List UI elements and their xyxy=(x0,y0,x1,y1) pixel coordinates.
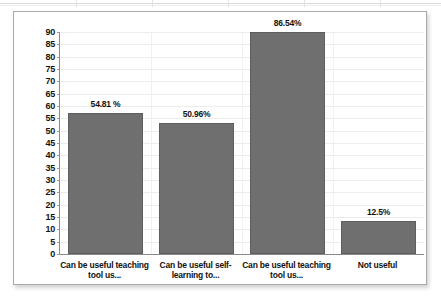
y-axis-tick-mark xyxy=(57,32,60,33)
plot-area: 05101520253035404550556065707580859054.8… xyxy=(59,32,424,255)
scan-artifact-tick xyxy=(152,0,153,7)
bar-value-label-2: 50.96% xyxy=(183,109,211,119)
y-axis-tick-mark xyxy=(57,57,60,58)
y-axis-tick-mark xyxy=(57,192,60,193)
y-axis-tick-label: 0 xyxy=(50,250,55,259)
y-axis-tick-mark xyxy=(57,205,60,206)
category-separator xyxy=(151,32,152,254)
y-axis-tick-mark xyxy=(57,180,60,181)
y-axis-tick-label: 45 xyxy=(45,139,55,148)
category-separator xyxy=(242,32,243,254)
y-axis-tick-label: 90 xyxy=(45,28,55,37)
x-axis-label-4: Not useful xyxy=(332,260,423,270)
bar-value-label-3: 86.54% xyxy=(274,18,302,28)
y-axis-tick-mark xyxy=(57,81,60,82)
y-axis-tick-mark xyxy=(57,242,60,243)
scan-artifact-tick xyxy=(380,0,381,7)
y-axis-tick-label: 55 xyxy=(45,114,55,123)
figure-frame: 05101520253035404550556065707580859054.8… xyxy=(13,11,427,285)
y-axis-tick-label: 70 xyxy=(45,77,55,86)
scan-artifact-tick xyxy=(76,0,77,7)
y-axis-tick-mark xyxy=(57,155,60,156)
bar-4[interactable] xyxy=(341,221,417,254)
y-axis-tick-mark xyxy=(57,69,60,70)
y-axis-tick-mark xyxy=(57,106,60,107)
bar-chart: 05101520253035404550556065707580859054.8… xyxy=(14,12,426,284)
y-axis-tick-label: 10 xyxy=(45,225,55,234)
category-separator xyxy=(333,32,334,254)
y-axis-tick-mark xyxy=(57,118,60,119)
x-axis-label-1: Can be useful teachingtool us... xyxy=(59,260,150,281)
scan-artifact-line-top xyxy=(0,3,441,4)
y-axis-tick-mark xyxy=(57,168,60,169)
y-axis-tick-label: 85 xyxy=(45,40,55,49)
y-axis-tick-label: 75 xyxy=(45,65,55,74)
bar-value-label-4: 12.5% xyxy=(367,207,390,217)
y-axis-tick-mark xyxy=(57,217,60,218)
y-axis-tick-mark xyxy=(57,229,60,230)
y-axis-tick-label: 65 xyxy=(45,89,55,98)
y-axis-tick-mark xyxy=(57,94,60,95)
scan-artifact-line-second xyxy=(0,5,441,6)
y-axis-tick-label: 40 xyxy=(45,151,55,160)
y-axis-tick-label: 25 xyxy=(45,188,55,197)
x-axis-label-3: Can be useful teachingtool us... xyxy=(241,260,332,281)
bar-3[interactable] xyxy=(250,32,326,254)
y-axis-tick-label: 60 xyxy=(45,102,55,111)
bar-value-label-1: 54.81 % xyxy=(91,99,121,109)
y-axis-tick-label: 80 xyxy=(45,52,55,61)
y-axis-tick-label: 5 xyxy=(50,237,55,246)
y-axis-tick-label: 30 xyxy=(45,176,55,185)
bar-2[interactable] xyxy=(159,123,235,254)
y-axis-tick-mark xyxy=(57,254,60,255)
y-axis-tick-label: 15 xyxy=(45,213,55,222)
bar-1[interactable] xyxy=(68,113,144,254)
y-axis-tick-label: 35 xyxy=(45,163,55,172)
y-axis-tick-mark xyxy=(57,143,60,144)
x-axis-label-2: Can be useful self-learning to... xyxy=(150,260,241,281)
y-axis-tick-label: 50 xyxy=(45,126,55,135)
y-axis-tick-mark xyxy=(57,44,60,45)
scan-artifact-tick xyxy=(304,0,305,7)
y-axis-tick-mark xyxy=(57,131,60,132)
y-axis-tick-label: 20 xyxy=(45,200,55,209)
scan-artifact-tick xyxy=(228,0,229,7)
